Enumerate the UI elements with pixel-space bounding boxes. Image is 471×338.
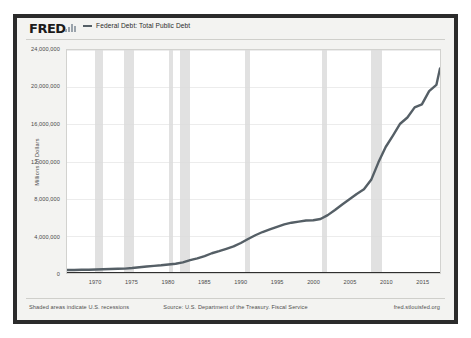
chart-legend: Federal Debt: Total Public Debt <box>83 22 190 29</box>
y-axis-tick-label: 0 <box>57 271 60 277</box>
x-axis-tick-label: 1975 <box>125 279 138 285</box>
chart-footer: Shaded areas indicate U.S. recessions So… <box>17 298 454 316</box>
x-axis-tick-label: 1990 <box>234 279 247 285</box>
series-line <box>67 50 440 273</box>
x-axis-tick-label: 1985 <box>198 279 211 285</box>
x-axis-tick-label: 1970 <box>89 279 102 285</box>
y-axis-tick-label: 12,000,000 <box>31 159 60 165</box>
y-axis-tick-label: 8,000,000 <box>34 196 60 202</box>
chart-frame: FRED Federal Debt: Total Public Debt Mil… <box>13 14 458 324</box>
footer-recession-note: Shaded areas indicate U.S. recessions <box>29 304 129 310</box>
chart-header: FRED Federal Debt: Total Public Debt <box>17 18 454 40</box>
x-axis-tick-label: 1995 <box>271 279 284 285</box>
footer-divider <box>26 298 445 299</box>
y-axis-ticks: 04,000,0008,000,00012,000,00016,000,0002… <box>17 49 63 274</box>
y-axis-tick-label: 24,000,000 <box>31 46 60 52</box>
footer-url[interactable]: fred.stlouisfed.org <box>394 304 440 310</box>
x-axis-tick-label: 2005 <box>344 279 357 285</box>
x-axis-tick-label: 2010 <box>380 279 393 285</box>
y-axis-tick-label: 20,000,000 <box>31 83 60 89</box>
x-axis-tick-label: 2000 <box>307 279 320 285</box>
chart-body: Millions of Dollars 04,000,0008,000,0001… <box>17 40 454 294</box>
x-axis-ticks: 1970197519801985199019952000200520102015 <box>66 274 441 294</box>
x-axis-tick-label: 2015 <box>416 279 429 285</box>
legend-series-label: Federal Debt: Total Public Debt <box>96 22 190 29</box>
legend-line-swatch <box>83 25 92 27</box>
chart-canvas: FRED Federal Debt: Total Public Debt Mil… <box>17 18 454 320</box>
x-axis-tick-label: 1980 <box>162 279 175 285</box>
plot-area <box>66 49 441 274</box>
y-axis-tick-label: 4,000,000 <box>34 234 60 240</box>
bar-chart-icon <box>65 23 76 32</box>
y-axis-tick-label: 16,000,000 <box>31 121 60 127</box>
x-axis-line <box>67 272 440 274</box>
fred-logo: FRED <box>29 21 66 36</box>
footer-source: Source: U.S. Department of the Treasury.… <box>163 304 307 310</box>
